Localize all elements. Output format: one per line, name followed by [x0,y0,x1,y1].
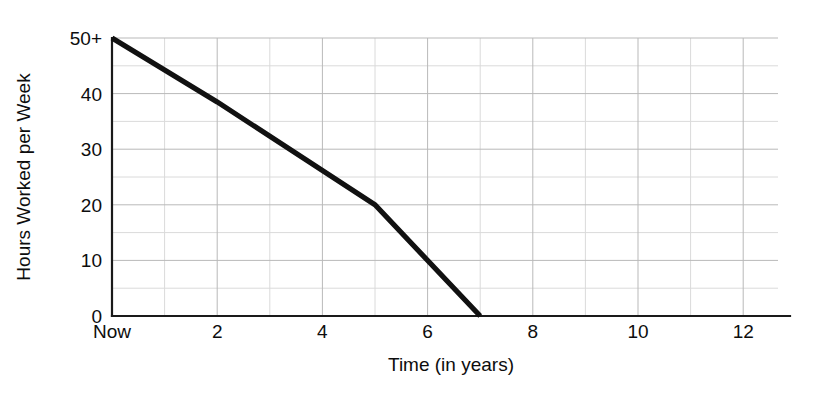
y-tick-label: 30 [81,139,102,160]
x-axis-tick-labels: Now24681012 [93,321,754,342]
y-axis-title: Hours Worked per Week [13,73,34,281]
y-tick-label: 0 [91,306,102,327]
x-tick-label: 8 [528,321,539,342]
y-axis-tick-labels: 01020304050+ [70,28,102,327]
line-chart: Now24681012 01020304050+ Time (in years)… [0,0,818,397]
x-tick-label: 4 [317,321,328,342]
y-tick-label: 10 [81,250,102,271]
y-tick-label: 50+ [70,28,102,49]
x-tick-label: 10 [627,321,648,342]
grid-major-horizontal [112,38,778,260]
x-axis-title: Time (in years) [388,354,514,375]
y-tick-label: 20 [81,195,102,216]
x-tick-label: 2 [212,321,223,342]
y-tick-label: 40 [81,84,102,105]
chart-canvas: Now24681012 01020304050+ Time (in years)… [0,0,818,397]
x-tick-label: 12 [733,321,754,342]
x-tick-label: 6 [422,321,433,342]
